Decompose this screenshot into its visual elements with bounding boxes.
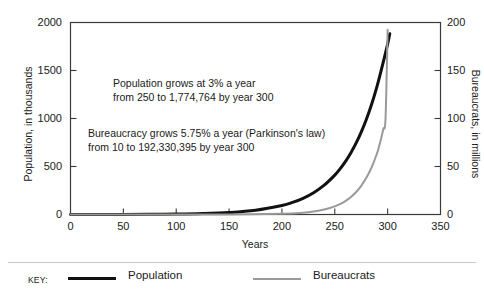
series-line-bureaucrats xyxy=(71,30,388,215)
legend-label-population: Population xyxy=(128,269,182,281)
tick-label: 1500 xyxy=(16,64,62,76)
tick-label: 2000 xyxy=(16,16,62,28)
annotation-bureaucracy-line2: from 10 to 192,330,395 by year 300 xyxy=(88,140,325,154)
tick-label: 250 xyxy=(312,220,358,232)
legend-swatch-bureaucrats xyxy=(253,278,301,280)
x-axis-title: Years xyxy=(70,238,440,250)
tick-label: 0 xyxy=(16,208,62,220)
legend-swatch-population xyxy=(68,277,116,280)
annotation-bureaucracy: Bureaucracy grows 5.75% a year (Parkinso… xyxy=(88,126,325,154)
chart-legend: KEY: Population Bureaucrats xyxy=(28,268,468,292)
tick-label: 200 xyxy=(447,16,484,28)
legend-divider xyxy=(8,262,476,263)
tick-label: 50 xyxy=(100,220,146,232)
annotation-population-line2: from 250 to 1,774,764 by year 300 xyxy=(113,90,274,104)
tick-label: 150 xyxy=(447,64,484,76)
chart-figure: Population, in thousands Bureaucrats, in… xyxy=(0,0,484,296)
tick-label: 1000 xyxy=(16,112,62,124)
tick-label: 50 xyxy=(447,160,484,172)
tick-label: 100 xyxy=(447,112,484,124)
tick-label: 150 xyxy=(206,220,252,232)
tick-label: 0 xyxy=(48,220,94,232)
legend-title: KEY: xyxy=(28,275,48,285)
series-line-population xyxy=(71,34,390,215)
tick-label: 300 xyxy=(365,220,411,232)
tick-label: 100 xyxy=(153,220,199,232)
annotation-bureaucracy-line1: Bureaucracy grows 5.75% a year (Parkinso… xyxy=(88,126,325,140)
tick-label: 0 xyxy=(447,208,484,220)
tick-label: 200 xyxy=(259,220,305,232)
tick-label: 350 xyxy=(418,220,464,232)
annotation-population-line1: Population grows at 3% a year xyxy=(113,76,274,90)
annotation-population: Population grows at 3% a year from 250 t… xyxy=(113,76,274,104)
tick-label: 500 xyxy=(16,160,62,172)
legend-label-bureaucrats: Bureaucrats xyxy=(313,269,375,281)
